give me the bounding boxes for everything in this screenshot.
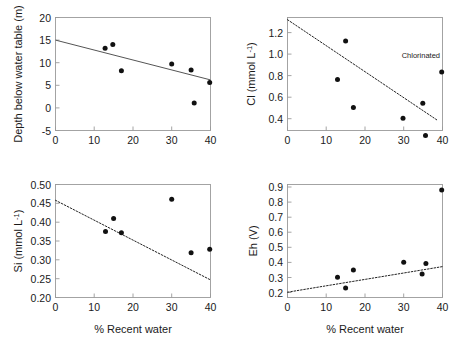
y-axis-title-tail: )	[245, 42, 257, 46]
data-point	[335, 77, 340, 82]
data-point	[420, 272, 425, 277]
x-tick-label: 30	[166, 134, 178, 146]
trend-line	[56, 200, 211, 280]
data-point	[420, 101, 425, 106]
y-tick-label: 1.0	[268, 48, 283, 60]
y-tick-label: 0.35	[31, 235, 52, 247]
x-tick-label: 20	[127, 134, 139, 146]
y-axis-ticks	[56, 18, 60, 131]
panel-si: 0.50 0.45 0.40 0.35 0.30 0.25 0.20 0 10 …	[0, 168, 240, 342]
data-points	[103, 42, 213, 105]
panel-eh-plot-area: 0.9 0.8 0.7 0.6 0.5 0.4 0.3 0.2 0 10 20 …	[268, 181, 448, 313]
y-tick-label: 1.2	[268, 27, 283, 39]
y-tick-label: 15	[39, 34, 51, 46]
y-tick-label: 20	[39, 12, 51, 24]
y-tick-label: 0.4	[268, 256, 283, 268]
y-axis-title-superscript: -1	[245, 46, 254, 53]
y-axis-title-base: Cl (mmol L	[245, 53, 257, 106]
y-axis-title: Depth below water table (m)	[12, 5, 24, 143]
data-point	[169, 197, 174, 202]
x-tick-label: 0	[53, 301, 59, 313]
x-axis-title: % Recent water	[94, 323, 172, 335]
y-axis-title: Cl (mmol L-1)	[245, 42, 258, 106]
x-axis-ticks	[56, 294, 211, 298]
y-tick-label: 0.20	[31, 292, 52, 304]
panel-cl: 1.2 1.0 0.8 0.6 0.4 0 10 20 30 40	[237, 0, 475, 170]
trend-line	[56, 40, 211, 80]
x-tick-label: 10	[88, 134, 100, 146]
data-point	[169, 62, 174, 67]
y-tick-label: 0.7	[268, 211, 283, 223]
data-point	[423, 261, 428, 266]
data-point	[351, 267, 356, 272]
y-tick-label: -5	[42, 125, 51, 137]
data-point	[401, 116, 406, 121]
x-tick-label: 30	[166, 301, 178, 313]
x-tick-label: 40	[205, 301, 217, 313]
data-point	[110, 42, 115, 47]
data-point	[119, 68, 124, 73]
y-tick-label: 0	[45, 102, 51, 114]
x-tick-label: 20	[359, 134, 371, 146]
scatter-panel-figure: 20 15 10 5 0 -5 0 10 20 30 40	[0, 0, 475, 342]
x-tick-label: 10	[320, 134, 332, 146]
y-tick-label: 10	[39, 57, 51, 69]
y-axis-ticks	[288, 33, 292, 119]
y-axis-title-tail: )	[12, 210, 24, 214]
x-tick-label: 30	[398, 301, 410, 313]
y-tick-label: 0.5	[268, 241, 283, 253]
x-axis-ticks	[288, 294, 443, 298]
plot-frame	[288, 18, 443, 131]
x-tick-label: 0	[53, 134, 59, 146]
data-point	[439, 70, 444, 75]
data-point	[343, 38, 348, 43]
panel-depth-plot-area: 20 15 10 5 0 -5 0 10 20 30 40	[39, 12, 216, 147]
panel-eh: 0.9 0.8 0.7 0.6 0.5 0.4 0.3 0.2 0 10 20 …	[237, 168, 475, 342]
data-point	[189, 250, 194, 255]
y-axis-ticks	[56, 185, 60, 298]
y-axis-title: Eh (V)	[247, 225, 259, 256]
x-tick-label: 30	[398, 134, 410, 146]
data-point	[192, 100, 197, 105]
y-tick-label: 0.2	[268, 287, 283, 299]
data-point	[103, 46, 108, 51]
data-point	[343, 286, 348, 291]
y-tick-label: 0.25	[31, 273, 52, 285]
y-tick-label: 5	[45, 79, 51, 91]
plot-frame	[56, 185, 211, 298]
data-point	[111, 216, 116, 221]
y-tick-label: 0.6	[268, 91, 283, 103]
y-tick-label: 0.3	[268, 272, 283, 284]
x-tick-label: 40	[437, 301, 449, 313]
data-point	[119, 230, 124, 235]
x-tick-label: 40	[205, 134, 217, 146]
x-tick-label: 40	[437, 134, 449, 146]
x-tick-label: 0	[285, 301, 291, 313]
data-point	[423, 133, 428, 138]
y-tick-label: 0.8	[268, 196, 283, 208]
y-tick-label: 0.6	[268, 226, 283, 238]
x-tick-label: 10	[88, 301, 100, 313]
trend-line	[288, 20, 437, 120]
y-axis-ticks	[288, 187, 292, 293]
data-point	[103, 229, 108, 234]
data-point	[335, 275, 340, 280]
data-point	[401, 260, 406, 265]
x-axis-ticks	[288, 127, 443, 131]
x-tick-label: 20	[127, 301, 139, 313]
panel-si-plot-area: 0.50 0.45 0.40 0.35 0.30 0.25 0.20 0 10 …	[31, 179, 217, 314]
y-tick-label: 0.40	[31, 216, 52, 228]
panel-depth: 20 15 10 5 0 -5 0 10 20 30 40	[0, 0, 240, 170]
y-tick-label: 0.8	[268, 70, 283, 82]
x-axis-title: % Recent water	[326, 323, 404, 335]
x-axis-ticks	[56, 127, 211, 131]
x-tick-label: 20	[359, 301, 371, 313]
data-point	[207, 80, 212, 85]
chlorinated-annotation: Chlorinated	[402, 51, 440, 60]
data-point	[351, 105, 356, 110]
data-point	[439, 188, 444, 193]
y-tick-label: 0.50	[31, 179, 52, 191]
y-tick-label: 0.45	[31, 197, 52, 209]
panel-cl-plot-area: 1.2 1.0 0.8 0.6 0.4 0 10 20 30 40	[268, 18, 448, 147]
data-point	[189, 67, 194, 72]
